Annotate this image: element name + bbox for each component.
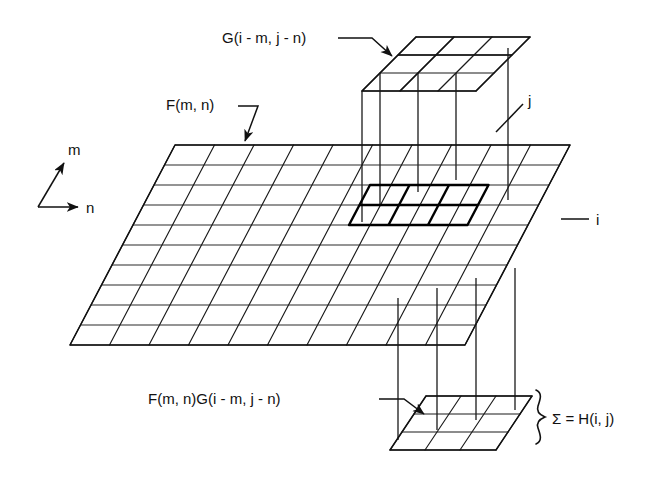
axis-n-label: n (86, 199, 94, 216)
kernel-grid-top (362, 37, 530, 91)
axis-i-label: i (596, 211, 599, 228)
axis-m-label: m (68, 141, 81, 158)
axis-indicator (38, 163, 78, 207)
convolution-diagram: G(i - m, j - n) j F(m, n) m n (0, 0, 650, 486)
input-plane-label: F(m, n) (166, 96, 214, 113)
axis-j-label: j (527, 92, 531, 109)
sum-brace (536, 390, 545, 444)
kernel-footprint-highlight (349, 185, 489, 225)
product-plane-label: F(m, n)G(i - m, j - n) (148, 390, 280, 407)
output-leader (379, 399, 424, 414)
kernel-label: G(i - m, j - n) (222, 29, 306, 46)
main-plane-grid (70, 145, 570, 345)
figure-canvas: G(i - m, j - n) j F(m, n) m n (0, 0, 650, 486)
sum-result-label: Σ = H(i, j) (552, 410, 614, 427)
kernel-leader (338, 38, 392, 56)
input-plane-leader (238, 106, 258, 141)
axis-j-line (496, 48, 523, 200)
